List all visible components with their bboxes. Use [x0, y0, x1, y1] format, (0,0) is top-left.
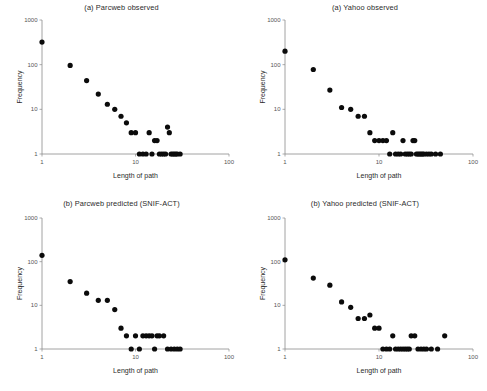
- svg-text:1000: 1000: [267, 215, 281, 221]
- svg-text:Frequency: Frequency: [259, 70, 267, 104]
- svg-text:Length of path: Length of path: [357, 172, 402, 180]
- svg-text:1: 1: [277, 151, 281, 157]
- svg-text:100: 100: [224, 159, 235, 165]
- svg-text:10: 10: [376, 159, 383, 165]
- svg-text:1: 1: [34, 151, 38, 157]
- panel-title: (b) Yahoo predicted (SNIF-ACT): [243, 199, 487, 208]
- svg-text:10: 10: [274, 106, 281, 112]
- svg-text:100: 100: [270, 62, 281, 68]
- svg-text:Length of path: Length of path: [357, 367, 402, 375]
- plot-area: 1101001000110100Length of pathFrequency: [0, 208, 243, 391]
- svg-text:1: 1: [283, 354, 287, 360]
- panel-parcweb-predicted: (b) Parcweb predicted (SNIF-ACT) 1101001…: [0, 196, 243, 391]
- svg-text:100: 100: [27, 62, 38, 68]
- svg-text:Length of path: Length of path: [113, 172, 158, 180]
- svg-text:100: 100: [224, 354, 235, 360]
- svg-text:Frequency: Frequency: [259, 266, 267, 300]
- panel-parcweb-observed: (a) Parcweb observed 1101001000110100Len…: [0, 0, 243, 196]
- scatter-plot-yahoo-observed: 1101001000110100Length of pathFrequency: [243, 10, 487, 196]
- svg-text:100: 100: [468, 354, 479, 360]
- svg-text:10: 10: [274, 302, 281, 308]
- panel-title: (b) Parcweb predicted (SNIF-ACT): [0, 199, 243, 208]
- plot-area: 1101001000110100Length of pathFrequency: [0, 10, 243, 196]
- scatter-plot-yahoo-predicted: 1101001000110100Length of pathFrequency: [243, 208, 487, 391]
- figure-grid: (a) Parcweb observed 1101001000110100Len…: [0, 0, 487, 391]
- svg-text:10: 10: [376, 354, 383, 360]
- svg-text:Frequency: Frequency: [16, 70, 24, 104]
- panel-yahoo-observed: (a) Yahoo observed 1101001000110100Lengt…: [243, 0, 487, 196]
- svg-text:10: 10: [132, 159, 139, 165]
- svg-text:100: 100: [27, 259, 38, 265]
- svg-text:100: 100: [270, 259, 281, 265]
- scatter-plot-parcweb-predicted: 1101001000110100Length of pathFrequency: [0, 208, 243, 391]
- svg-text:1: 1: [283, 159, 287, 165]
- svg-text:10: 10: [132, 354, 139, 360]
- scatter-plot-parcweb-observed: 1101001000110100Length of pathFrequency: [0, 10, 243, 196]
- plot-area: 1101001000110100Length of pathFrequency: [243, 10, 487, 196]
- svg-text:10: 10: [31, 302, 38, 308]
- svg-text:1000: 1000: [267, 17, 281, 23]
- svg-text:Frequency: Frequency: [16, 266, 24, 300]
- svg-text:1: 1: [40, 354, 44, 360]
- svg-text:1: 1: [277, 346, 281, 352]
- plot-area: 1101001000110100Length of pathFrequency: [243, 208, 487, 391]
- svg-text:1: 1: [34, 346, 38, 352]
- svg-text:Length of path: Length of path: [113, 367, 158, 375]
- svg-text:10: 10: [31, 106, 38, 112]
- svg-text:1: 1: [40, 159, 44, 165]
- svg-text:1000: 1000: [24, 17, 38, 23]
- svg-text:100: 100: [468, 159, 479, 165]
- panel-yahoo-predicted: (b) Yahoo predicted (SNIF-ACT) 110100100…: [243, 196, 487, 391]
- svg-text:1000: 1000: [24, 215, 38, 221]
